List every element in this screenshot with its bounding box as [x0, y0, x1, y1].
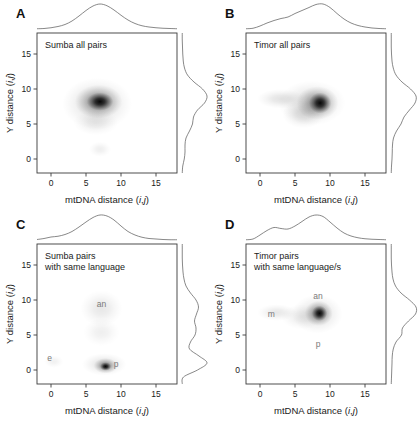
panel-title: Timor all pairs: [254, 40, 310, 51]
axis-title-part: ): [355, 194, 358, 205]
cluster-label-m: m: [268, 309, 275, 319]
y-tick-label: 15: [231, 260, 241, 270]
x-tick-label: 5: [293, 389, 298, 399]
x-tick-label: 0: [49, 178, 54, 188]
panel-plot: anmp051015051015mtDNA distance (i,j)Y di…: [209, 211, 418, 422]
top-marginal-density: [37, 4, 177, 29]
axis-title-part: mtDNA distance (: [274, 194, 349, 205]
x-tick-label: 15: [151, 178, 161, 188]
x-tick-label: 10: [116, 389, 126, 399]
axis-title-part: ): [146, 405, 149, 416]
panel-a: A051015051015mtDNA distance (i,j)Y dista…: [0, 0, 209, 211]
panel-plot: 051015051015mtDNA distance (i,j)Y distan…: [209, 0, 418, 211]
panel-c: Canep051015051015mtDNA distance (i,j)Y d…: [0, 211, 209, 422]
panel-letter: B: [225, 6, 235, 21]
x-tick-label: 0: [49, 389, 54, 399]
cluster-label-an: an: [97, 299, 107, 309]
y-axis-title: Y distance (i,j): [4, 284, 15, 344]
y-tick-label: 5: [26, 119, 31, 129]
density-blob: [87, 93, 114, 111]
x-tick-label: 15: [151, 389, 161, 399]
panel-title-line1: Timor pairs: [254, 251, 341, 262]
y-tick-label: 0: [235, 365, 240, 375]
right-marginal-density: [182, 33, 207, 173]
panel-letter: C: [16, 217, 26, 232]
right-marginal-density: [182, 244, 207, 384]
x-tick-label: 10: [325, 178, 335, 188]
x-tick-label: 10: [116, 178, 126, 188]
density-blob: [257, 89, 305, 109]
panel-b: B051015051015mtDNA distance (i,j)Y dista…: [209, 0, 418, 211]
y-axis-title-group: Y distance (i,j): [4, 73, 15, 133]
x-axis-title: mtDNA distance (i,j): [274, 405, 358, 416]
panel-title-line1: Sumba pairs: [45, 251, 125, 262]
cluster-label-p: p: [316, 339, 321, 349]
y-tick-label: 10: [231, 84, 241, 94]
y-axis-title: Y distance (i,j): [213, 284, 224, 344]
panel-plot: anep051015051015mtDNA distance (i,j)Y di…: [0, 211, 209, 422]
density-blob: [257, 304, 296, 321]
x-tick-label: 0: [258, 389, 263, 399]
y-axis-title-group: Y distance (i,j): [213, 284, 224, 344]
top-marginal-density: [246, 215, 386, 240]
y-tick-label: 5: [26, 330, 31, 340]
y-tick-label: 15: [22, 260, 32, 270]
y-tick-label: 0: [235, 154, 240, 164]
panel-title: Timor pairswith same language/s: [254, 251, 341, 273]
top-marginal-density: [246, 4, 386, 29]
panel-letter: D: [225, 217, 235, 232]
y-tick-label: 5: [235, 330, 240, 340]
y-tick-label: 10: [22, 84, 32, 94]
axis-title-part: ): [213, 73, 224, 76]
density-blob: [309, 93, 331, 114]
y-tick-label: 10: [231, 295, 241, 305]
cluster-label-an: an: [313, 291, 323, 301]
axis-title-part: Y distance (: [4, 293, 15, 344]
y-axis-title: Y distance (i,j): [213, 73, 224, 133]
panel-title-line1: Timor all pairs: [254, 40, 310, 51]
axis-title-part: Y distance (: [213, 293, 224, 344]
axis-title-part: ): [355, 405, 358, 416]
x-tick-label: 15: [360, 389, 370, 399]
density-blob: [312, 306, 327, 321]
y-tick-label: 0: [26, 365, 31, 375]
y-tick-label: 5: [235, 119, 240, 129]
x-axis-title: mtDNA distance (i,j): [65, 194, 149, 205]
y-tick-label: 10: [22, 295, 32, 305]
panel-title: Sumba all pairs: [45, 40, 107, 51]
density-blob: [83, 318, 119, 346]
y-tick-label: 15: [231, 49, 241, 59]
y-tick-label: 15: [22, 49, 32, 59]
panel-title-line1: Sumba all pairs: [45, 40, 107, 51]
axis-title-part: mtDNA distance (: [65, 194, 140, 205]
x-tick-label: 0: [258, 178, 263, 188]
cluster-label-e: e: [47, 353, 52, 363]
x-tick-label: 5: [84, 389, 89, 399]
y-tick-label: 0: [26, 154, 31, 164]
axis-title-part: ): [146, 194, 149, 205]
density-cloud: [62, 78, 132, 157]
axis-title-part: Y distance (: [4, 82, 15, 133]
y-axis-title: Y distance (i,j): [4, 73, 15, 133]
panel-letter: A: [16, 6, 26, 21]
panel-title-line2: with same language/s: [254, 262, 341, 273]
density-blob: [73, 110, 118, 135]
panel-plot: 051015051015mtDNA distance (i,j)Y distan…: [0, 0, 209, 211]
y-axis-title-group: Y distance (i,j): [4, 284, 15, 344]
y-axis-title-group: Y distance (i,j): [213, 73, 224, 133]
cluster-label-p: p: [114, 359, 119, 369]
panel-title-line2: with same language: [45, 262, 125, 273]
x-tick-label: 10: [325, 389, 335, 399]
x-tick-label: 5: [293, 178, 298, 188]
density-blob: [100, 362, 111, 370]
axis-title-part: ): [4, 73, 15, 76]
x-tick-label: 15: [360, 178, 370, 188]
density-blob: [89, 142, 111, 157]
panel-d: Danmp051015051015mtDNA distance (i,j)Y d…: [209, 211, 418, 422]
top-marginal-density: [37, 215, 177, 240]
axis-title-part: ): [213, 284, 224, 287]
axis-title-part: mtDNA distance (: [274, 405, 349, 416]
right-marginal-density: [391, 33, 416, 173]
x-axis-title: mtDNA distance (i,j): [274, 194, 358, 205]
axis-title-part: mtDNA distance (: [65, 405, 140, 416]
